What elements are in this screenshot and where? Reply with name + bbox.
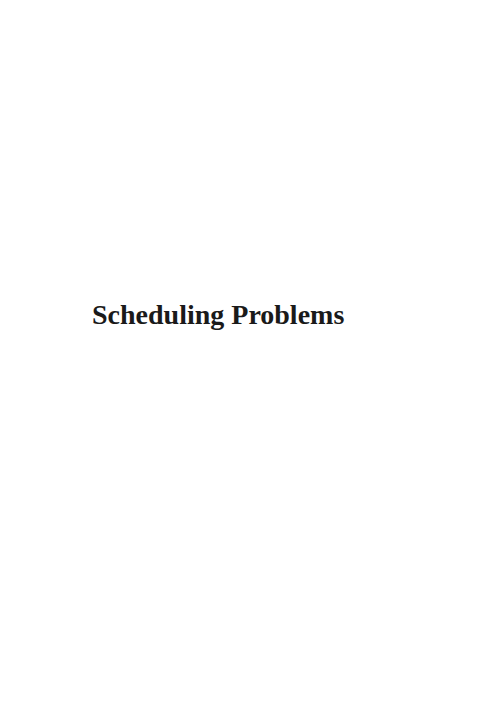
chapter-title: Scheduling Problems bbox=[92, 298, 344, 332]
document-page: Scheduling Problems bbox=[0, 0, 479, 710]
